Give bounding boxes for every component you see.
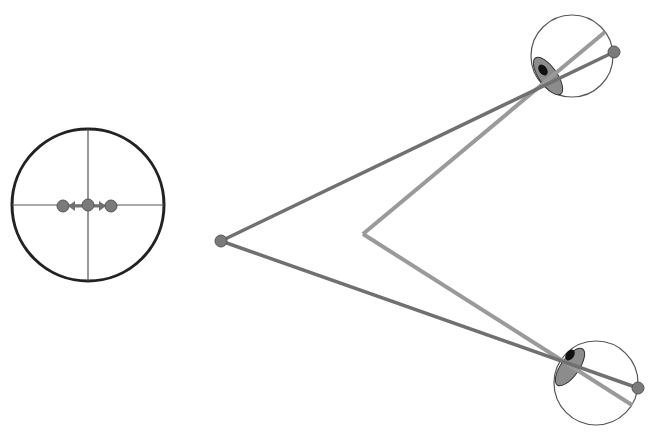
near-vergence-lines [221,52,638,388]
far-line-top [363,32,605,234]
near-line-top [221,52,614,241]
diagram-canvas [0,0,656,437]
eyes-group [528,15,638,425]
fovea-dot-bottom-eye [632,382,644,394]
near-line-bottom [221,241,638,388]
fovea-dot-top-eye [608,46,620,58]
vergence-diagram [0,0,656,437]
target-dot-right [105,200,117,212]
target-dot-left [57,200,69,212]
far-line-bottom [363,234,632,405]
far-vergence-lines [363,32,632,405]
target-display [12,129,164,281]
target-dot-center [82,199,94,211]
near-target-dot [215,235,227,247]
